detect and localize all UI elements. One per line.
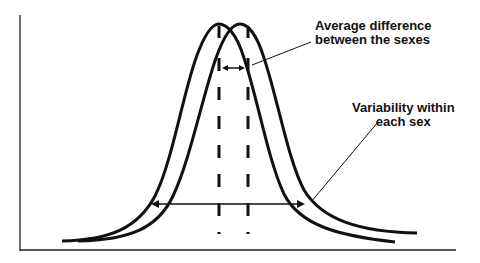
label-average-difference: Average difference between the sexes: [315, 19, 432, 47]
leader-line-variability: [311, 122, 378, 202]
label-variability: Variability within each sex: [352, 101, 455, 129]
variability-arrow: [151, 200, 305, 208]
label-average-line1: Average difference: [315, 19, 432, 33]
curve-left: [62, 24, 395, 242]
label-variability-line1: Variability within: [352, 101, 455, 115]
label-variability-line2: each sex: [352, 115, 455, 129]
label-average-line2: between the sexes: [315, 33, 432, 47]
difference-arrow: [222, 65, 245, 71]
